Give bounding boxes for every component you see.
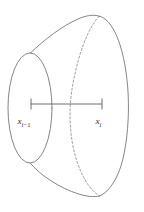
solid-of-revolution-figure: xi−1 xi [0,0,144,212]
label-x-i-minus-1-subscript-offset: 1 [27,121,30,128]
label-x-i-subscript-index: i [100,121,102,128]
figure-container: xi−1 xi [0,0,144,212]
figure-background [0,0,144,212]
